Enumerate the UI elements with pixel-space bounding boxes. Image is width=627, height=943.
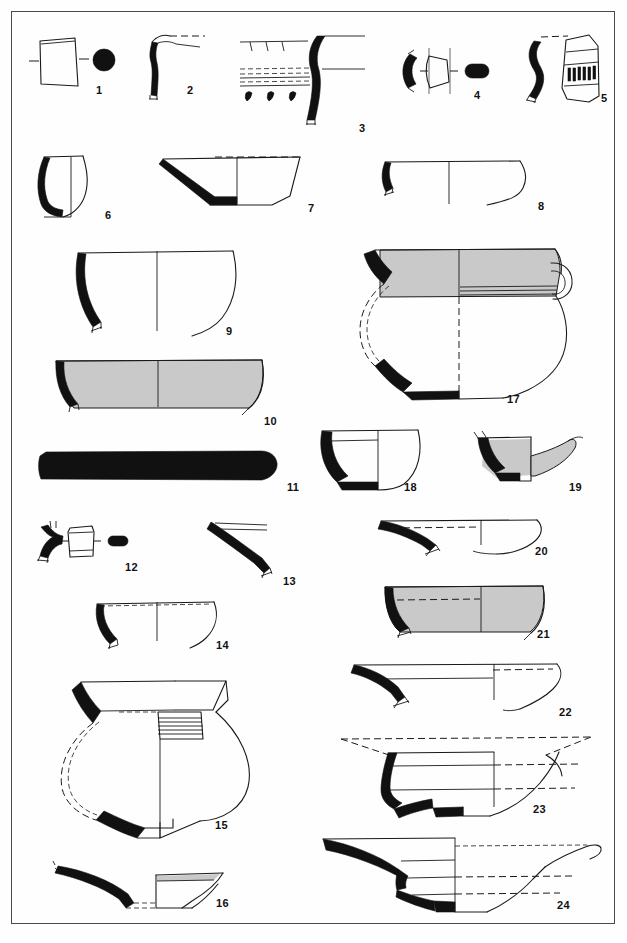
figure-number-19: 19 [569, 481, 582, 493]
figure-3-drawing [240, 36, 365, 125]
figure-number-2: 2 [187, 84, 193, 96]
figure-23-drawing [341, 737, 591, 818]
figure-number-9: 9 [226, 325, 232, 337]
figure-number-11: 11 [287, 481, 299, 493]
figure-19-drawing [474, 431, 583, 481]
pottery-plate: 1 2 3 4 5 6 7 8 9 10 11 12 13 14 15 16 1… [0, 0, 627, 943]
figure-20-drawing [378, 520, 541, 556]
figure-number-12: 12 [125, 561, 138, 573]
figure-2-drawing [149, 35, 205, 100]
figure-6-drawing [38, 156, 87, 217]
figure-11-drawing [39, 451, 278, 480]
figure-number-17: 17 [507, 393, 520, 405]
figure-13-drawing [207, 522, 272, 578]
figure-number-5: 5 [601, 92, 607, 104]
figure-number-22: 22 [559, 706, 572, 718]
figure-21-drawing [385, 586, 544, 640]
figure-5-drawing [526, 35, 599, 103]
figure-10-drawing [56, 360, 263, 415]
figure-15-drawing [61, 681, 249, 838]
figure-number-4: 4 [474, 89, 480, 101]
figure-number-3: 3 [359, 122, 365, 134]
figure-number-7: 7 [308, 202, 314, 214]
figure-number-21: 21 [537, 628, 550, 640]
figure-7-drawing [159, 157, 300, 205]
figure-number-23: 23 [533, 803, 546, 815]
figure-14-drawing [96, 602, 216, 649]
figure-number-10: 10 [264, 415, 277, 427]
figure-number-14: 14 [216, 639, 229, 651]
figure-number-13: 13 [283, 575, 296, 587]
figure-4-drawing [403, 48, 489, 94]
figure-16-drawing [53, 861, 223, 908]
figure-number-20: 20 [535, 545, 548, 557]
figure-number-18: 18 [404, 481, 417, 493]
plate-drawings [0, 0, 627, 943]
figure-22-drawing [351, 664, 561, 711]
figure-number-16: 16 [216, 897, 229, 909]
figure-1-drawing [29, 38, 115, 86]
figure-12-drawing [37, 521, 128, 563]
figure-17-drawing [360, 249, 572, 400]
figure-number-24: 24 [557, 899, 570, 911]
figure-number-15: 15 [215, 819, 228, 831]
figure-8-drawing [382, 161, 525, 205]
figure-9-drawing [76, 251, 236, 336]
figure-number-8: 8 [538, 200, 544, 212]
figure-number-1: 1 [96, 84, 102, 96]
figure-number-6: 6 [105, 209, 111, 221]
